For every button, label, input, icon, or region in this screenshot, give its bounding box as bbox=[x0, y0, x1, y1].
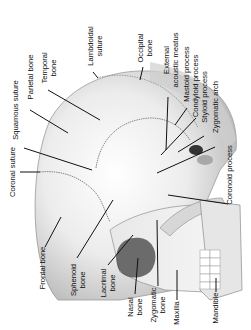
orbit bbox=[116, 238, 155, 278]
label-squamous-suture: Squamous suture bbox=[11, 80, 20, 140]
label-lambdoidal-suture: Lambdoidalsuture bbox=[86, 26, 104, 66]
label-frontal-bone: Frontal bone bbox=[38, 247, 47, 290]
mastoid-shape bbox=[197, 155, 213, 165]
label-mandible: Mandible bbox=[211, 293, 220, 324]
label-coronal-suture: Coronal suture bbox=[8, 147, 17, 197]
label-mastoid-process: Mastoid process bbox=[182, 46, 191, 101]
teeth bbox=[200, 250, 220, 289]
label-nasal-bone: Nasalbone bbox=[126, 297, 144, 317]
label-parietal-bone: Parietal bone bbox=[26, 55, 35, 100]
label-coronoid-process: Coronoid process bbox=[225, 145, 234, 205]
label-zygomatic-arch: Zygomatic arch bbox=[211, 81, 220, 133]
label-temporal-bone: Temporalbone bbox=[40, 52, 58, 84]
label-styloid-process: Styloid process bbox=[200, 71, 209, 123]
label-occipital-bone: Occipitalbone bbox=[136, 33, 154, 62]
label-condyloid-process: Condyloid process bbox=[191, 55, 200, 118]
skull-diagram: Lambdoidalsuture Occipitalbone Temporalb… bbox=[0, 0, 251, 330]
label-maxilla: Maxilla bbox=[172, 300, 181, 324]
